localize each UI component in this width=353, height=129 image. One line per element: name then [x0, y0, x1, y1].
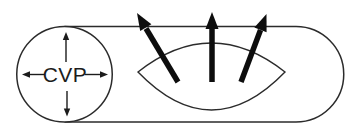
diagram-canvas: CVP — [0, 0, 353, 129]
thick-arrow-up-right-icon — [241, 14, 267, 82]
cvp-vessel-diagram: CVP — [0, 0, 353, 129]
thick-arrow-up-right-head — [254, 14, 266, 32]
thick-arrow-up-left-shaft — [146, 29, 178, 83]
thick-arrow-up-right-shaft — [241, 30, 261, 82]
thick-arrow-up-left-icon — [137, 13, 178, 82]
cvp-label: CVP — [43, 63, 88, 86]
thick-arrow-up-left-head — [137, 13, 151, 31]
thick-arrow-up-icon — [206, 12, 219, 82]
thick-arrow-up-head — [206, 12, 219, 29]
